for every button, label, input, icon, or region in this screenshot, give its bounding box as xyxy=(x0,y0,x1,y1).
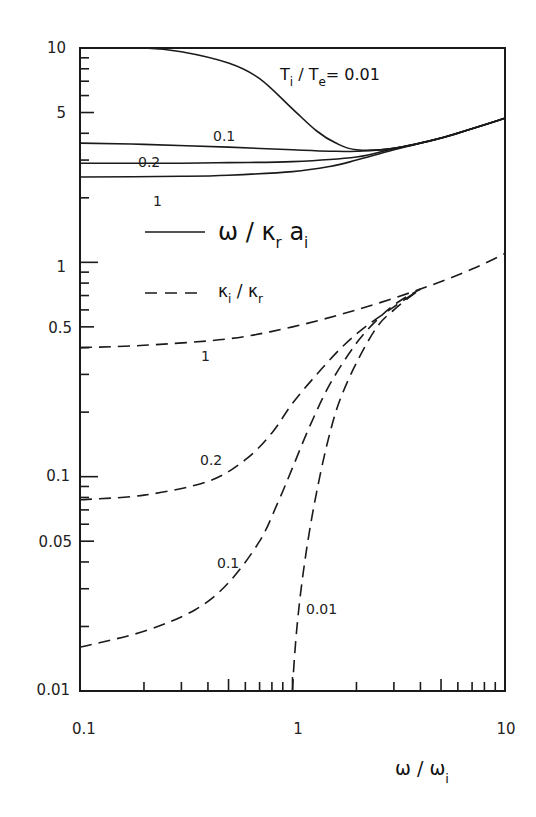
curve-label-solid-0.1: 0.1 xyxy=(213,128,235,144)
x-tick-label-1: 1 xyxy=(293,720,303,738)
x-axis-labels: 0.1 1 10 xyxy=(72,720,515,738)
y-tick-label-0.1: 0.1 xyxy=(46,467,70,485)
annotation-value: = 0.01 xyxy=(326,65,380,84)
legend-solid-a: a xyxy=(282,218,304,246)
curve-label-solid-0.2: 0.2 xyxy=(138,154,160,170)
dashed-curve-0.1 xyxy=(80,289,420,647)
curve-label-solid-1: 1 xyxy=(153,193,162,209)
legend-dashed-slash: / κ xyxy=(231,281,258,301)
series-curves xyxy=(80,48,505,691)
solid-curve-0.01 xyxy=(80,48,505,151)
dashed-curve-0.2 xyxy=(80,289,420,500)
x-tick-label-0.1: 0.1 xyxy=(72,720,96,738)
legend-dashed-sub-r: r xyxy=(258,292,263,306)
curve-label-dashed-0.01: 0.01 xyxy=(306,601,337,617)
curve-label-dashed-0.1: 0.1 xyxy=(217,555,239,571)
x-axis-title: ω / ωi xyxy=(395,757,449,786)
x-tick-label-10: 10 xyxy=(496,720,515,738)
y-tick-label-1: 1 xyxy=(56,258,66,276)
curve-labels: 0.1 0.2 1 1 0.2 0.1 0.01 xyxy=(138,128,337,617)
legend: ω / κr ai κi / κr xyxy=(145,218,308,306)
annotation-slash-t: / T xyxy=(293,65,319,84)
legend-solid-sub-i: i xyxy=(304,234,308,252)
curve-label-dashed-1: 1 xyxy=(201,348,210,364)
y-tick-label-10: 10 xyxy=(47,39,66,57)
legend-dashed-label: κi / κr xyxy=(218,281,263,306)
x-axis-ticks xyxy=(144,677,495,691)
y-tick-label-0.5: 0.5 xyxy=(48,319,72,337)
y-tick-label-0.01: 0.01 xyxy=(37,681,70,699)
x-axis-title-sub: i xyxy=(445,771,449,786)
legend-dashed-kappa: κ xyxy=(218,281,228,301)
y-axis-labels: 10 5 1 0.5 0.1 0.05 0.01 xyxy=(37,39,72,699)
curve-label-dashed-0.2: 0.2 xyxy=(200,452,222,468)
line-chart: 10 5 1 0.5 0.1 0.05 0.01 0.1 1 10 ω / ωi… xyxy=(0,0,536,817)
dashed-curve-1 xyxy=(80,254,505,348)
dashed-curve-0.01 xyxy=(293,289,421,691)
solid-curve-0.1 xyxy=(80,118,505,151)
annotation-sub-e: e xyxy=(318,75,325,89)
y-tick-label-5: 5 xyxy=(56,104,66,122)
annotation-ti-te: Ti / Te= 0.01 xyxy=(279,65,380,89)
legend-solid-label: ω / κr ai xyxy=(218,218,308,252)
legend-solid-main: ω / κ xyxy=(218,218,276,246)
y-tick-label-0.05: 0.05 xyxy=(39,533,72,551)
annotation-t: T xyxy=(279,65,290,84)
x-axis-title-main: ω / ω xyxy=(395,757,445,779)
